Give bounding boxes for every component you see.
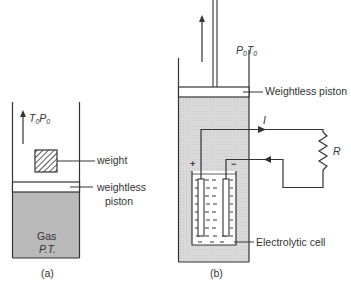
temperature-subscript-b: 0: [253, 50, 257, 57]
piston-label-a-line1: weightless: [97, 181, 146, 193]
pressure-subscript: 0: [46, 118, 50, 125]
ambient-conditions-label-a: T0P0: [29, 112, 50, 128]
cathode-electrode: [223, 179, 229, 236]
gas-label-line1: Gas: [37, 230, 56, 242]
arrow-head-icon: [20, 110, 26, 117]
weight-block: [35, 150, 57, 172]
weight-label: weight: [97, 154, 127, 166]
resistor-label: R: [333, 145, 341, 157]
cathode-minus-sign: −: [231, 158, 236, 170]
anode-electrode: [198, 179, 204, 236]
current-label: I: [263, 114, 266, 126]
piston-label-b: Weightless piston: [265, 85, 347, 97]
arrow-head-icon-b: [199, 15, 205, 22]
weightless-piston-b: [179, 87, 250, 97]
anode-plus-sign: +: [190, 158, 195, 170]
electrolytic-cell: [192, 171, 236, 245]
figure-b: [179, 0, 328, 262]
electrolytic-cell-label: Electrolytic cell: [256, 236, 325, 248]
piston-label-a-line2: piston: [105, 195, 133, 207]
pressure-symbol-b: P: [236, 44, 243, 56]
caption-b: (b): [210, 267, 223, 279]
current-direction-arrow-icon: [258, 126, 266, 133]
weightless-piston: [13, 182, 80, 192]
resistor-icon: [319, 132, 327, 170]
return-direction-arrow-icon: [264, 156, 271, 163]
ambient-conditions-label-b: P0T0: [236, 44, 257, 60]
gas-label-line2: P.T.: [39, 243, 56, 255]
caption-a: (a): [41, 267, 54, 279]
